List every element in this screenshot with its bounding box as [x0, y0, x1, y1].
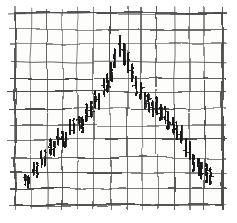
grid-line [62, 132, 63, 146]
grid-line [77, 160, 78, 209]
bar-range-tick [128, 52, 129, 72]
grid-line [115, 50, 116, 67]
grid-line [149, 95, 150, 112]
grid-line [177, 134, 180, 135]
grid-line [12, 158, 59, 159]
grid-line [140, 7, 141, 84]
grid-line [177, 122, 178, 140]
grid-line [95, 78, 149, 79]
grid-line [99, 94, 100, 110]
grid-line [206, 164, 207, 182]
grid-line [128, 52, 129, 71]
chart-canvas [0, 0, 237, 223]
grid-line [120, 37, 121, 57]
bar-range-tick [82, 117, 83, 132]
grid-line [34, 170, 36, 171]
grid-line [174, 105, 175, 209]
bar-range-tick [45, 150, 46, 166]
bar-range-tick [124, 44, 125, 65]
bar-range-tick [156, 98, 157, 114]
grid-line [169, 123, 171, 124]
grid-line [107, 74, 108, 92]
grid-line [111, 158, 112, 209]
grid-line [207, 170, 210, 171]
bar-range-tick [193, 155, 194, 171]
grid-line [165, 120, 168, 121]
grid-line [58, 128, 59, 145]
grid-line [28, 177, 29, 187]
bar-range-tick [181, 126, 182, 144]
grid-line [76, 120, 79, 121]
grid-line [74, 118, 75, 133]
grid-line [121, 49, 123, 50]
grid-line [66, 133, 67, 147]
bar-range-tick [114, 49, 116, 67]
grid-line [106, 138, 226, 139]
grid-line [70, 121, 71, 134]
bar-range-tick [37, 163, 38, 177]
grid-line [30, 77, 31, 153]
grid-line [173, 118, 174, 133]
grid-line [58, 139, 60, 140]
grid-line [48, 147, 51, 148]
bar-range-tick [190, 142, 191, 159]
grid-line [80, 43, 165, 44]
bar-range-tick [41, 150, 42, 167]
grid-line [91, 102, 92, 117]
grid-line [152, 102, 153, 117]
grid-line [54, 141, 55, 155]
grid-line [157, 98, 158, 114]
grid-line [169, 188, 226, 189]
bar-range-tick [62, 132, 63, 146]
grid-line [145, 93, 146, 108]
grid-line [190, 142, 191, 158]
bar-range-tick [111, 63, 112, 81]
grid-line [87, 105, 88, 120]
hand-drawn-chart-figure [0, 0, 237, 223]
grid-line [182, 126, 183, 143]
bar-range-tick [73, 118, 74, 133]
grid-line [132, 64, 133, 81]
bar-range-tick [99, 94, 100, 110]
grid-line [142, 149, 143, 209]
